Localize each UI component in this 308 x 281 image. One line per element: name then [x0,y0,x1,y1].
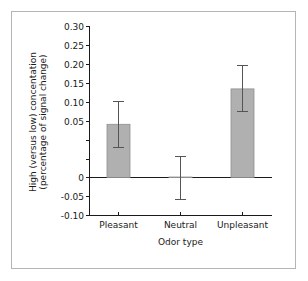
figure-container: 0.30 0.25 0.20 0.15 0.10 0.05 0 -0.05 -0… [0,0,308,281]
y-axis-title-line1: High (versus low) concentation [28,52,38,192]
y-tick-label-005: 0.05 [64,117,84,127]
y-tick-label-0: 0 [78,173,84,183]
x-axis-ticks [119,212,243,216]
x-tick-label-unpleasant: Unpleasant [217,220,268,230]
y-tick-label-020: 0.20 [64,60,84,70]
y-tick-label-010: 0.10 [64,98,84,108]
y-tick-label-neg005: -0.05 [61,192,84,202]
x-tick-label-neutral: Neutral [164,220,197,230]
x-axis-title: Odor type [158,237,203,247]
x-tick-label-pleasant: Pleasant [99,220,138,230]
y-tick-label-015: 0.15 [64,79,84,89]
y-tick-label-030: 0.30 [64,22,84,32]
bar-group-neutral[interactable] [169,157,192,200]
y-tick-label-neg010: -0.10 [61,211,85,221]
bar-group-unpleasant[interactable] [231,66,254,178]
y-tick-label-025: 0.25 [64,41,84,51]
y-axis-ticks [86,27,90,216]
y-axis-title-line2: (percentage of signal change) [38,54,48,189]
bar-group-pleasant[interactable] [107,102,130,178]
bar-chart: 0.30 0.25 0.20 0.15 0.10 0.05 0 -0.05 -0… [0,0,308,281]
